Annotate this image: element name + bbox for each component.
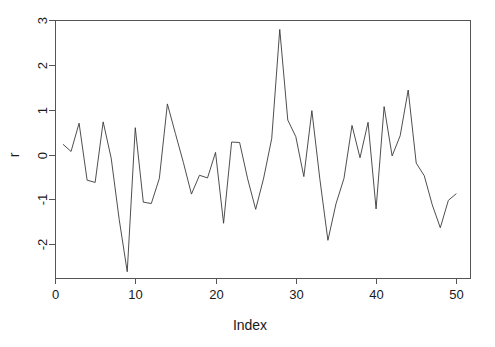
y-tick-label: 0 [35, 152, 50, 159]
x-axis-title: Index [233, 317, 267, 333]
x-tick-label: 10 [128, 287, 142, 302]
x-tick-label: 40 [369, 287, 383, 302]
line-chart-figure: -2-10123 01020304050 Index r [0, 0, 495, 347]
x-tick-label: 50 [449, 287, 463, 302]
y-tick-label: -1 [35, 194, 50, 206]
y-tick-label: 1 [35, 107, 50, 114]
y-tick-label: 2 [35, 62, 50, 69]
chart-canvas: -2-10123 01020304050 Index r [0, 0, 495, 347]
x-tick-label: 20 [209, 287, 223, 302]
x-tick-label: 30 [289, 287, 303, 302]
y-axis-title: r [6, 152, 22, 157]
y-tick-label: 3 [35, 17, 50, 24]
x-tick-label: 0 [52, 287, 59, 302]
chart-background [0, 0, 495, 347]
y-tick-label: -2 [35, 239, 50, 251]
